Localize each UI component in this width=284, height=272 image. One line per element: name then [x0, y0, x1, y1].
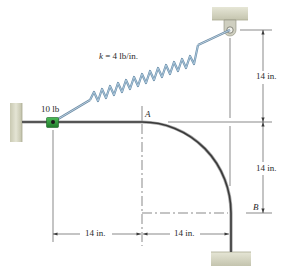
collar	[47, 118, 59, 128]
curved-rod	[22, 122, 231, 252]
point-b-label: B	[252, 203, 260, 212]
spring	[53, 30, 230, 122]
point-a-label: A	[144, 110, 152, 119]
spring-constant-label: k = 4 lb/in.	[98, 52, 139, 61]
ceiling-support	[212, 7, 248, 36]
dim-horizontal-right-label: 14 in.	[173, 229, 196, 238]
dimension-arrowheads	[53, 30, 265, 236]
spring-constant-value: = 4 lb/in.	[103, 51, 138, 61]
collar-pin-icon	[51, 120, 55, 124]
collar-weight-label: 10 lb	[40, 105, 60, 114]
dim-vertical-upper-label: 14 in.	[255, 72, 278, 81]
floor-support	[211, 252, 251, 266]
dim-vertical-lower-label: 14 in.	[255, 164, 278, 173]
left-wall-support	[10, 103, 22, 142]
dimension-lines	[53, 30, 272, 246]
dim-horizontal-left-label: 14 in.	[84, 229, 107, 238]
collar-spring-diagram	[0, 0, 284, 272]
